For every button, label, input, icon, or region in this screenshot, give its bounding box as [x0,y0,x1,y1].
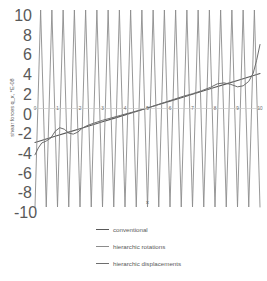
x-tick-label: 4 [118,106,132,112]
x-tick-label: 5 [141,106,155,112]
x-tick-label: 9 [231,106,245,112]
x-tick-label: 0 [28,106,42,112]
chart-container: shear forces q_x, *E-08 1086420-2-4-6-8-… [0,0,267,281]
legend-swatch-icon [96,229,109,230]
x-tick-label: 10 [253,106,267,112]
x-tick-label: 3 [96,106,110,112]
legend-swatch-icon [96,246,109,247]
legend-swatch-icon [96,263,109,264]
x-tick-label: 1 [51,106,65,112]
legend-item[interactable]: hierarchic displacements [96,256,181,271]
legend-item[interactable]: conventional [96,222,148,237]
x-tick-label: 7 [186,106,200,112]
legend-item-label: conventional [113,226,148,234]
x-tick-label: 2 [73,106,87,112]
legend-item-label: hierarchic rotations [113,243,165,251]
x-tick-label: 6 [163,106,177,112]
x-axis-title: x [35,199,260,206]
legend-item[interactable]: hierarchic rotations [96,239,165,254]
x-tick-label: 8 [208,106,222,112]
chart-legend: conventionalhierarchic rotationshierarch… [0,222,267,281]
plot-area: 1086420-2-4-6-8-10 012345678910 [0,0,267,215]
x-tick-labels: 012345678910 [0,0,267,215]
legend-item-label: hierarchic displacements [113,260,181,268]
